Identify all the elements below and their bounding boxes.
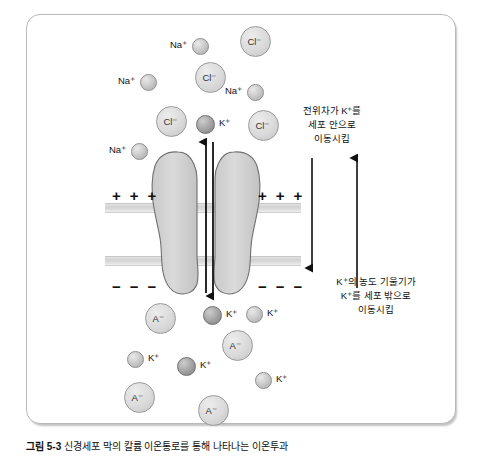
charge-symbol: −: [276, 279, 285, 294]
ion-label: Cl⁻: [164, 117, 178, 127]
ion-label: Na⁺: [109, 145, 126, 155]
figure-caption: 그림 5-3 신경세포 막의 칼륨 이온통로를 통해 나타나는 이온투과: [26, 440, 466, 454]
ion-label: A⁻: [132, 393, 143, 403]
charge-symbol: −: [294, 279, 303, 294]
outer-charges-left: + + +: [112, 188, 156, 203]
charge-symbol: −: [148, 279, 157, 294]
charge-symbol: +: [130, 188, 139, 203]
charge-symbol: +: [112, 188, 121, 203]
charge-symbol: +: [276, 188, 285, 203]
charge-symbol: −: [112, 279, 121, 294]
charge-symbol: −: [258, 279, 267, 294]
ion-label: A⁻: [230, 341, 241, 351]
figure-caption-text: 신경세포 막의 칼륨 이온통로를 통해 나타나는 이온투과: [64, 441, 288, 452]
ion-label: K⁺: [200, 360, 211, 370]
ion-label: Cl⁻: [248, 37, 262, 47]
ion-label: Cl⁻: [256, 121, 270, 131]
membrane-band-inner: [105, 256, 301, 266]
ion-label: K⁺: [226, 309, 237, 319]
ion-label: Na⁺: [225, 86, 242, 96]
ion-label: K⁺: [267, 308, 278, 318]
charge-symbol: −: [130, 279, 139, 294]
ion-sphere: [177, 357, 196, 376]
inner-charges-right: − − −: [258, 279, 302, 294]
ion-label: Cl⁻: [203, 73, 217, 83]
inner-charges-left: − − −: [112, 279, 156, 294]
membrane-band-outer: [105, 203, 301, 213]
figure-root: + + + + + + − − − − − − Na⁺Cl⁻Na⁺Cl⁻Na⁺C…: [0, 0, 496, 464]
ion-sphere: [247, 84, 264, 101]
ion-sphere: [127, 351, 144, 368]
figure-caption-number: 그림 5-3: [26, 441, 61, 452]
ion-label: K⁺: [219, 118, 230, 128]
outer-charges-right: + + +: [258, 188, 302, 203]
charge-symbol: +: [258, 188, 267, 203]
electrical-gradient-note: 전위차가 K⁺를 세포 안으로 이동시킴: [289, 104, 375, 145]
ion-label: Na⁺: [170, 40, 187, 50]
ion-label: Na⁺: [118, 76, 135, 86]
ion-sphere: [131, 143, 148, 160]
ion-label: A⁻: [206, 406, 217, 416]
ion-sphere: [192, 38, 209, 55]
charge-symbol: +: [294, 188, 303, 203]
ion-sphere: [140, 74, 157, 91]
ion-sphere: [196, 115, 215, 134]
figure-panel-frame: [26, 14, 456, 424]
ion-label: K⁺: [276, 374, 287, 384]
charge-symbol: +: [148, 188, 157, 203]
ion-sphere: [255, 372, 272, 389]
ion-label: A⁻: [153, 314, 164, 324]
ion-sphere: [203, 306, 222, 325]
concentration-gradient-note: K⁺의 농도 기울기가 K⁺를 세포 밖으로 이동시킴: [320, 275, 432, 316]
ion-label: K⁺: [148, 353, 159, 363]
ion-sphere: [246, 306, 263, 323]
